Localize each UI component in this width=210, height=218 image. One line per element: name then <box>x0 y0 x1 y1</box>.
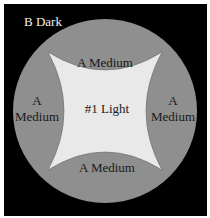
region-left-label-line2: Medium <box>15 109 59 124</box>
region-right-label-line2: Medium <box>151 109 195 124</box>
region-right-label-line1: A <box>168 93 178 108</box>
region-bottom-label: A Medium <box>79 160 135 175</box>
lighting-diagram: B Dark A Medium A Medium A Medium #1 Lig… <box>0 0 210 218</box>
corner-label: B Dark <box>24 14 62 29</box>
region-top-label: A Medium <box>77 55 133 70</box>
region-left-label-line1: A <box>32 93 42 108</box>
center-label: #1 Light <box>85 101 130 116</box>
